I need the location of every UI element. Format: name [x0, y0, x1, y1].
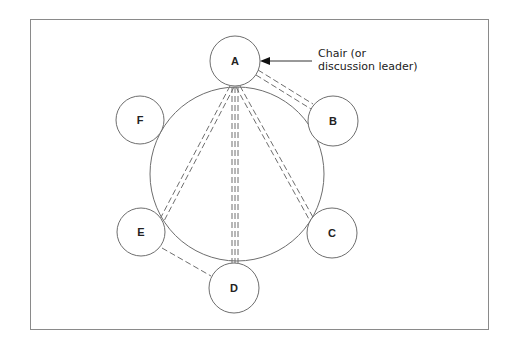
- line-e-d: [162, 248, 211, 276]
- line-a-e: [164, 87, 234, 221]
- seating-diagram: A B C D E F Chair (or discussion leader): [0, 0, 514, 345]
- line-a-b: [258, 70, 313, 104]
- annotation-line-1: Chair (or: [318, 47, 366, 60]
- line-a-c: [240, 86, 314, 219]
- line-a-b: [256, 75, 311, 109]
- node-c-label: C: [328, 227, 336, 239]
- line-a-c: [236, 87, 310, 221]
- line-a-e: [160, 86, 230, 219]
- node-d-label: D: [230, 282, 238, 294]
- node-e-label: E: [137, 226, 144, 238]
- node-f-label: F: [137, 114, 144, 126]
- annotation-line-2: discussion leader): [318, 60, 418, 73]
- table-circle: [150, 87, 324, 261]
- node-a-label: A: [231, 55, 239, 67]
- annotation-arrow-icon: [260, 57, 312, 65]
- node-b-label: B: [329, 115, 337, 127]
- connection-lines: [160, 70, 314, 276]
